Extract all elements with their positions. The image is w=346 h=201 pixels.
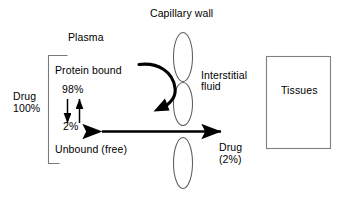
diagram-vector-layer	[0, 0, 346, 201]
label-protein-bound: Protein bound	[55, 65, 122, 77]
capillary-wall-ellipse-1	[174, 33, 193, 82]
label-percent-unbound: 2%	[63, 121, 78, 133]
bound-to-interstitial-curved-arrow	[139, 64, 175, 111]
label-drug-total-value: 100%	[13, 103, 40, 115]
label-unbound-free: Unbound (free)	[55, 144, 127, 156]
capillary-wall-ellipse-2	[174, 83, 193, 126]
label-percent-bound: 98%	[62, 84, 83, 96]
label-drug-transferred-name: Drug	[219, 142, 242, 154]
label-plasma: Plasma	[68, 32, 104, 44]
label-drug-total-name: Drug	[13, 91, 36, 103]
label-drug-transferred-value: (2%)	[219, 154, 242, 166]
capillary-wall-ellipses	[174, 33, 193, 189]
tissues-box	[267, 57, 331, 149]
capillary-wall-ellipse-3	[174, 138, 193, 189]
label-interstitial-fluid-line2: fluid	[201, 81, 221, 93]
diagram-canvas: Capillary wall Plasma Protein bound 98% …	[0, 0, 346, 201]
label-capillary-wall: Capillary wall	[150, 8, 213, 20]
label-tissues: Tissues	[281, 85, 318, 97]
